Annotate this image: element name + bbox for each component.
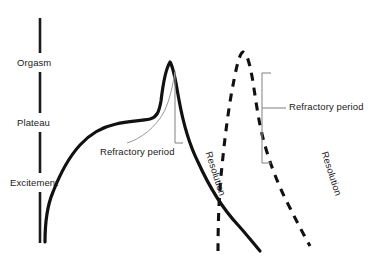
annotation-refractory-period-2: Refractory period (289, 101, 364, 112)
axis-label-orgasm: Orgasm (17, 57, 51, 68)
diagram-canvas (0, 0, 374, 266)
axis-label-plateau: Plateau (17, 117, 50, 128)
refractory-leader-1 (127, 72, 175, 143)
axis-label-excitement: Excitement (10, 177, 58, 188)
annotation-refractory-period-1: Refractory period (100, 146, 175, 157)
dashed-response-curve (218, 52, 310, 251)
sexual-response-cycle-diagram: Orgasm Plateau Excitement Refractory per… (0, 0, 374, 266)
